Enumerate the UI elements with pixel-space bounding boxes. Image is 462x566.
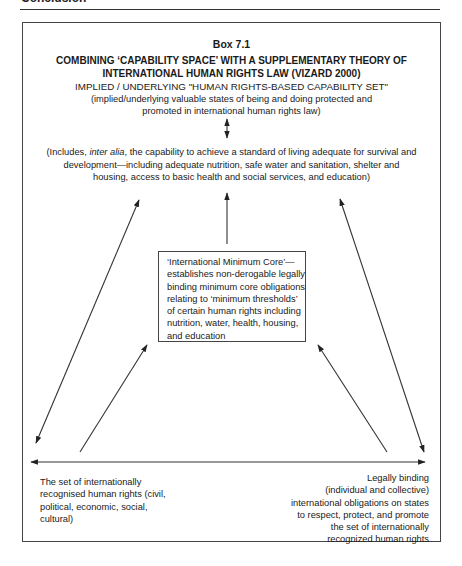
arrows-layer	[0, 0, 462, 566]
arrow-right-outer	[340, 199, 424, 452]
arrow-right-obligations-to-core	[318, 345, 387, 452]
arrow-left-outer	[36, 200, 139, 443]
arrow-left-rights-to-core	[80, 345, 147, 452]
